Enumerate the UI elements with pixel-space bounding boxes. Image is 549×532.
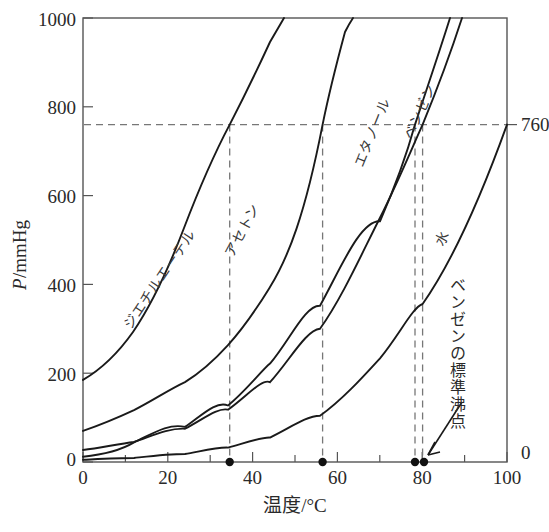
y-tick-label: 1000 (38, 9, 76, 30)
x-axis-tick-labels: 0 20 40 60 80 100 (78, 467, 521, 488)
boiling-point-dot-ether (226, 458, 234, 466)
y-axis-title-symbol: P (9, 278, 30, 291)
series-label-acetone: アセトン (222, 201, 263, 260)
right-zero-label: 0 (521, 442, 531, 463)
vapor-pressure-chart: 1000 800 600 400 200 0 0 20 40 60 80 100… (0, 0, 549, 532)
x-tick-label: 40 (243, 467, 262, 488)
series-label-diethyl-ether: ジエチルエーテル (120, 227, 198, 332)
boiling-point-dot-acetone (318, 458, 326, 466)
y-tick-label: 600 (48, 186, 77, 207)
y-tick-label: 0 (67, 449, 77, 470)
x-tick-label: 80 (413, 467, 432, 488)
x-tick-label: 20 (158, 467, 177, 488)
x-tick-label: 100 (493, 467, 522, 488)
boiling-point-dot-benzene (420, 458, 428, 466)
benzene-boiling-point-annotation-text: ベンゼンの標準沸点 (448, 277, 465, 430)
boiling-point-dot-ethanol (411, 458, 419, 466)
x-tick-label: 60 (328, 467, 347, 488)
y-tick-label: 400 (48, 275, 77, 296)
curve-acetone (83, 18, 353, 431)
y-axis-title: P /mmHg (9, 219, 30, 291)
curve-benzene (83, 18, 462, 450)
benzene-boiling-point-annotation: ベンゼンの標準沸点 (443, 277, 465, 430)
x-axis-title: 温度/°C (263, 495, 327, 516)
right-axis-annotations: 760 0 (507, 114, 549, 463)
curve-diethyl-ether (83, 18, 284, 380)
y-tick-label: 800 (48, 97, 77, 118)
x-tick-label: 0 (78, 467, 88, 488)
curve-ethanol (83, 18, 450, 457)
y-axis-ticks (83, 18, 93, 462)
series-label-ethanol: エタノール (351, 96, 393, 169)
reference-line-label: 760 (521, 114, 549, 135)
y-axis-title-unit: /mmHg (9, 219, 30, 278)
series-label-water: 水 (432, 228, 453, 248)
y-tick-label: 200 (48, 364, 77, 385)
y-axis-tick-labels: 1000 800 600 400 200 0 (38, 9, 76, 470)
